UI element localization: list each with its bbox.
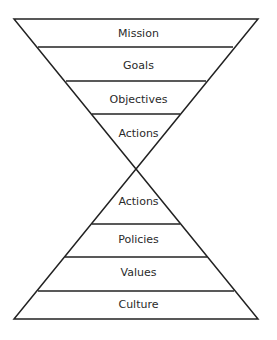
label-objectives: Objectives xyxy=(0,94,277,106)
label-actions-bottom: Actions xyxy=(0,196,277,208)
label-culture: Culture xyxy=(0,299,277,311)
label-actions-top: Actions xyxy=(0,128,277,140)
label-values: Values xyxy=(0,267,277,279)
hourglass-diagram xyxy=(0,0,277,340)
label-mission: Mission xyxy=(0,28,277,40)
label-policies: Policies xyxy=(0,234,277,246)
label-goals: Goals xyxy=(0,60,277,72)
